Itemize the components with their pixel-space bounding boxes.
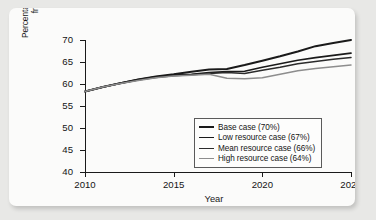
legend-swatch-icon-0 — [199, 126, 214, 128]
y-tick-label: 60 — [62, 78, 73, 89]
legend-entry-0: Base case (70%) — [199, 122, 315, 133]
y-axis-title-line-1: Percentage of U.S. oil consumption — [20, 8, 30, 38]
y-axis-title-line-2: from foreign suppliers — [30, 8, 40, 13]
plot-region: 40455055606570 2010201520202025 Base cas… — [76, 30, 352, 182]
chart-legend: Base case (70%)Low resource case (67%)Me… — [194, 118, 322, 168]
series-line-0 — [85, 40, 351, 91]
legend-entry-2: Mean resource case (66%) — [199, 143, 315, 154]
legend-swatch-icon-2 — [199, 148, 214, 149]
legend-label-3: High resource case (64%) — [218, 154, 311, 163]
figure-canvas: Percentage of U.S. oil consumption from … — [9, 8, 355, 206]
figure-card: Percentage of U.S. oil consumption from … — [9, 8, 355, 206]
y-tick-label: 65 — [62, 56, 73, 67]
y-tick-label: 55 — [62, 100, 73, 111]
y-tick-label: 40 — [62, 166, 73, 177]
legend-entry-1: Low resource case (67%) — [199, 133, 315, 144]
x-axis-title: Year — [76, 194, 352, 204]
series-line-2 — [85, 58, 351, 92]
y-axis-title: Percentage of U.S. oil consumption from … — [15, 8, 45, 50]
legend-label-1: Low resource case (67%) — [218, 133, 310, 142]
y-tick-label: 50 — [62, 122, 73, 133]
legend-entry-3: High resource case (64%) — [199, 154, 315, 165]
legend-swatch-icon-3 — [199, 158, 214, 159]
y-tick-label: 45 — [62, 144, 73, 155]
legend-swatch-icon-1 — [199, 137, 214, 138]
legend-label-2: Mean resource case (66%) — [218, 144, 315, 153]
legend-label-0: Base case (70%) — [218, 123, 280, 132]
y-tick-label: 70 — [62, 34, 73, 45]
